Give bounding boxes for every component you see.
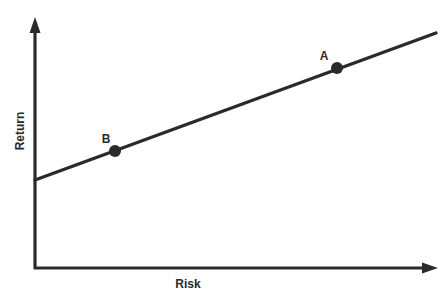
- chart-canvas: A B Return Risk: [0, 0, 447, 300]
- data-point-a-label: A: [320, 49, 329, 63]
- data-point-a-marker[interactable]: [331, 62, 343, 74]
- x-axis-arrowhead: [422, 262, 438, 273]
- risk-return-chart: A B Return Risk: [0, 0, 447, 300]
- x-axis-label: Risk: [175, 277, 201, 291]
- risk-return-line: [35, 33, 436, 180]
- y-axis-label: Return: [13, 112, 27, 151]
- y-axis-arrowhead: [30, 17, 41, 33]
- data-point-b-label: B: [102, 132, 111, 146]
- data-point-b-marker[interactable]: [109, 145, 121, 157]
